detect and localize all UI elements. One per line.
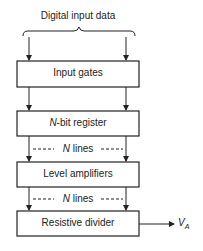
n-symbol: N [63,143,70,154]
output-voltage-label: VA [178,217,189,230]
lines-text: lines [73,143,94,154]
input-data-label: Digital input data [17,10,139,21]
n-symbol: N [49,117,56,128]
n-symbol: N [63,193,70,204]
input-gates-label: Input gates [17,67,139,78]
register-text: -bit register [57,117,107,128]
a-subscript: A [185,223,190,230]
v-symbol: V [178,217,185,228]
register-label: N-bit register [17,117,139,128]
n-lines-label-2: N lines [56,193,100,204]
level-amplifiers-label: Level amplifiers [17,168,139,179]
input-brace [23,27,135,36]
n-lines-label-1: N lines [56,143,100,154]
lines-text: lines [73,193,94,204]
resistive-divider-label: Resistive divider [17,217,139,228]
